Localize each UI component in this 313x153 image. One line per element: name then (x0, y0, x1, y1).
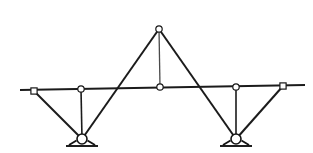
truss-member-tie-apex (159, 29, 160, 87)
support-flange-left (69, 141, 77, 146)
truss-member-hanger-left (81, 89, 82, 139)
pin-support-circle (77, 134, 87, 144)
pin-support-support-left (66, 134, 98, 146)
truss-supports-group (66, 134, 252, 146)
truss-joint-joint-apex (156, 26, 162, 32)
support-flange-right (88, 141, 96, 146)
truss-joint-joint-left-outer (31, 88, 37, 94)
pin-support-circle (231, 134, 241, 144)
truss-member-diag-right-outer (236, 86, 283, 139)
truss-members-group (20, 29, 305, 139)
pin-support-support-right (220, 134, 252, 146)
truss-joint-joint-right-outer (280, 83, 286, 89)
truss-member-diag-right-inner (159, 29, 236, 139)
support-flange-right (242, 141, 250, 146)
truss-member-diag-left-inner (82, 29, 159, 139)
truss-joint-joint-center (157, 84, 163, 90)
truss-joint-joint-left-hanger (78, 86, 84, 92)
support-flange-left (223, 141, 231, 146)
truss-diagram-figure (0, 0, 313, 153)
truss-diagram-canvas (0, 0, 313, 153)
truss-joint-joint-right-hanger (233, 84, 239, 90)
truss-member-diag-left-outer (34, 91, 82, 139)
